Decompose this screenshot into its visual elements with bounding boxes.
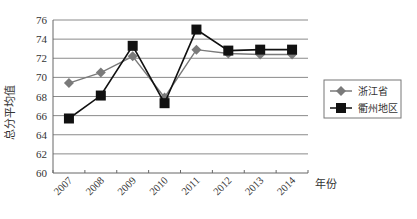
x-axis-label: 年份	[315, 177, 337, 191]
square-marker	[191, 25, 201, 35]
y-tick-label: 72	[36, 52, 47, 64]
legend-item: 衢州地区	[330, 102, 398, 114]
y-axis-label: 总分平均值	[3, 85, 17, 140]
square-marker	[96, 91, 106, 101]
y-tick-label: 60	[36, 167, 48, 179]
square-marker	[336, 103, 346, 113]
x-tick-label: 2010	[147, 175, 170, 198]
legend-label: 衢州地区	[358, 102, 398, 114]
legend-label: 浙江省	[358, 85, 388, 97]
square-marker	[255, 45, 265, 55]
line-chart: 606264666870727476 200720082009201020112…	[0, 0, 417, 219]
y-tick-label: 68	[36, 91, 48, 103]
square-marker	[223, 46, 233, 56]
x-tick-label: 2012	[211, 175, 234, 198]
y-tick-label: 66	[36, 110, 48, 122]
x-tick-label: 2014	[275, 174, 298, 197]
y-tick-label: 76	[36, 14, 48, 26]
x-tick-label: 2009	[115, 175, 138, 198]
x-tick-label: 2013	[243, 175, 266, 198]
y-tick-label: 64	[36, 129, 48, 141]
x-tick-label: 2007	[52, 175, 75, 198]
y-tick-label: 70	[36, 71, 48, 83]
legend: 浙江省衢州地区	[324, 80, 401, 118]
diamond-marker	[64, 78, 74, 88]
y-axis-ticks: 606264666870727476	[36, 14, 48, 179]
square-marker	[287, 45, 297, 55]
gridlines	[53, 20, 308, 154]
x-tick-label: 2008	[84, 175, 107, 198]
x-axis-ticks: 20072008200920102011201220132014	[52, 170, 308, 197]
diamond-marker	[96, 68, 106, 78]
diamond-marker	[191, 45, 201, 55]
y-tick-label: 62	[36, 148, 47, 160]
square-marker	[160, 98, 170, 108]
square-marker	[64, 113, 74, 123]
square-marker	[128, 41, 138, 51]
x-tick-label: 2011	[179, 175, 201, 197]
y-tick-label: 74	[36, 33, 48, 45]
